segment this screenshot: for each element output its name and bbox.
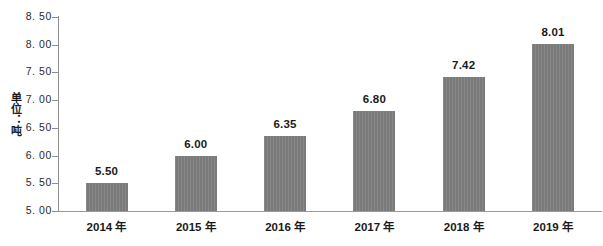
bar <box>86 183 128 211</box>
plot-area <box>58 17 600 211</box>
y-axis-tick-label: 8. 00 <box>6 38 52 50</box>
bar-value-label: 6.00 <box>166 138 226 150</box>
bar-value-label: 5.50 <box>77 165 137 177</box>
bar-value-label: 6.80 <box>344 93 404 105</box>
x-axis-category-label: 2016 年 <box>245 218 325 234</box>
bar <box>175 156 217 211</box>
y-axis-tick-label: 7. 50 <box>6 65 52 77</box>
y-axis-tick-label: 6. 00 <box>6 149 52 161</box>
bar <box>353 111 395 211</box>
bar-value-label: 6.35 <box>255 118 315 130</box>
y-axis-tick-label: 5. 00 <box>6 204 52 216</box>
bar <box>532 44 574 211</box>
bar <box>264 136 306 211</box>
bar-value-label: 7.42 <box>434 59 494 71</box>
x-axis-category-label: 2017 年 <box>334 218 414 234</box>
y-axis-tick-label: 8. 50 <box>6 10 52 22</box>
x-axis-category-label: 2014 年 <box>67 218 147 234</box>
bar <box>443 77 485 211</box>
y-axis-tick-label: 5. 50 <box>6 176 52 188</box>
x-axis-category-label: 2015 年 <box>156 218 236 234</box>
bar-value-label: 8.01 <box>523 26 583 38</box>
x-axis-line <box>58 211 602 212</box>
bar-chart: 单位：吨 5. 005. 506. 006. 507. 007. 508. 00… <box>0 0 603 246</box>
y-axis-tick-label: 7. 00 <box>6 93 52 105</box>
y-axis-tick-label: 6. 50 <box>6 121 52 133</box>
x-axis-category-label: 2019 年 <box>513 218 593 234</box>
y-axis-tick-mark <box>52 211 58 212</box>
x-axis-category-label: 2018 年 <box>424 218 504 234</box>
